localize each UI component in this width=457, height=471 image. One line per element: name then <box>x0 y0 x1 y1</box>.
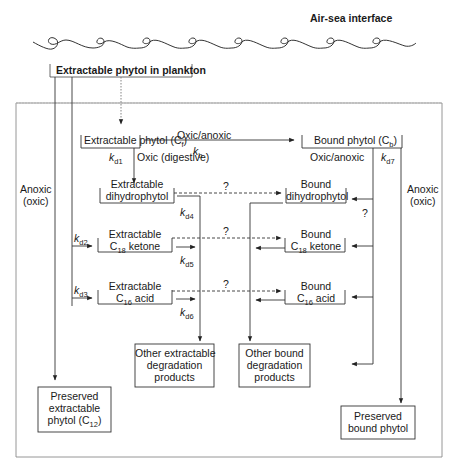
edge-label-kd2: kd2 <box>74 232 88 249</box>
edge-label-kd5: kd5 <box>180 254 194 271</box>
node-preserved-extractable-phytol: Preserved extractable phytol (C12) <box>38 390 111 431</box>
node-bound-dihydrophytol: Bounddihydrophytol <box>286 178 346 202</box>
edge-label-anoxic-left: Anoxic(oxic) <box>20 183 52 207</box>
edge-label-q1: ? <box>223 180 229 192</box>
node-other-bound-products: Other bounddegradationproducts <box>239 347 310 383</box>
edge-label-q4: ? <box>362 207 368 219</box>
edge-label-kd6: kd6 <box>180 306 194 323</box>
edge-label-oxic-digestive: Oxic (digestive) <box>137 151 209 163</box>
node-bound-phytol: Bound phytol (Cb) <box>314 134 397 151</box>
air-sea-interface-label: Air-sea interface <box>310 12 392 24</box>
edge-label-kd3: kd3 <box>74 284 88 301</box>
plankton-source-label: Extractable phytol in plankton <box>56 64 206 76</box>
node-bound-c18-ketone: Bound C18 ketone <box>286 228 346 257</box>
node-extractable-c18-ketone: Extractable C18 ketone <box>100 228 170 257</box>
bound-degradation-path <box>250 203 283 341</box>
node-bound-c16-acid: Bound C16 acid <box>286 280 346 309</box>
edge-label-anoxic-right: Anoxic(oxic) <box>407 183 439 207</box>
node-extractable-c16-acid: Extractable C16 acid <box>100 280 170 309</box>
edge-label-oxic-anoxic-bound: Oxic/anoxic <box>310 151 364 163</box>
waves-icon <box>33 38 416 50</box>
edge-label-kd4: kd4 <box>180 206 194 223</box>
node-other-extractable-products: Other extractabledegradationproducts <box>135 347 214 383</box>
kd7-path <box>352 148 373 364</box>
edge-label-q2: ? <box>223 225 229 237</box>
node-extractable-dihydrophytol: Extractabledihydrophytol <box>103 178 171 202</box>
edge-label-oxic-anoxic-top: Oxic/anoxic <box>177 129 231 141</box>
edge-label-kd7: kd7 <box>381 151 395 168</box>
edge-label-q3: ? <box>223 278 229 290</box>
edge-label-kd1: kd1 <box>109 151 123 168</box>
node-extractable-phytol: Extractable phytol (Cf) <box>84 134 187 151</box>
node-preserved-bound-phytol: Preservedbound phytol <box>341 410 415 434</box>
